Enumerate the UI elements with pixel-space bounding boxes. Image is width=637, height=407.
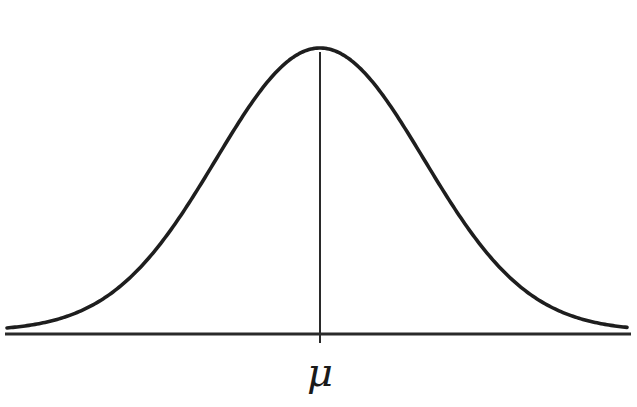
normal-distribution-diagram: [0, 0, 637, 407]
bell-curve: [7, 48, 627, 328]
mean-label: μ: [300, 352, 340, 392]
